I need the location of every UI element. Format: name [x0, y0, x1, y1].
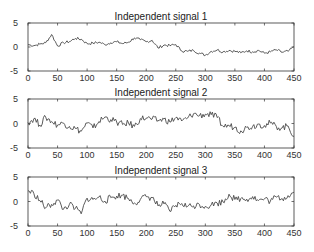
y-tick-label: -5 [10, 221, 18, 231]
x-tick-label: 400 [257, 73, 272, 83]
y-tick-label: 0 [13, 197, 18, 207]
x-tick-label: 250 [168, 228, 183, 238]
x-tick-label: 450 [286, 150, 301, 160]
y-tick-label: 0 [13, 119, 18, 129]
x-tick-label: 150 [109, 150, 124, 160]
axes-box [28, 99, 294, 148]
x-tick-label: 250 [168, 73, 183, 83]
x-tick-label: 300 [198, 150, 213, 160]
x-tick-label: 250 [168, 150, 183, 160]
y-tick-label: 5 [13, 18, 18, 28]
subplot-2: Independent signal 205010015020025030035… [10, 87, 302, 160]
x-tick-label: 400 [257, 150, 272, 160]
x-tick-label: 450 [286, 228, 301, 238]
y-tick-label: 0 [13, 42, 18, 52]
x-tick-label: 100 [80, 73, 95, 83]
x-tick-label: 400 [257, 228, 272, 238]
x-tick-label: 0 [25, 228, 30, 238]
x-tick-label: 0 [25, 150, 30, 160]
x-tick-label: 300 [198, 73, 213, 83]
x-tick-label: 200 [139, 228, 154, 238]
x-tick-label: 200 [139, 150, 154, 160]
x-tick-label: 200 [139, 73, 154, 83]
x-tick-label: 50 [53, 228, 63, 238]
subplot-title: Independent signal 3 [115, 165, 208, 176]
x-tick-label: 350 [227, 150, 242, 160]
x-tick-label: 0 [25, 73, 30, 83]
x-tick-label: 150 [109, 228, 124, 238]
x-tick-label: 150 [109, 73, 124, 83]
y-tick-label: -5 [10, 66, 18, 76]
x-tick-label: 50 [53, 150, 63, 160]
x-tick-label: 350 [227, 73, 242, 83]
subplot-title: Independent signal 1 [115, 11, 208, 22]
figure: Independent signal 105010015020025030035… [0, 0, 314, 252]
axes-box [28, 177, 294, 226]
x-tick-label: 300 [198, 228, 213, 238]
x-tick-label: 450 [286, 73, 301, 83]
x-tick-label: 100 [80, 150, 95, 160]
y-tick-label: 5 [13, 94, 18, 104]
subplot-3: Independent signal 305010015020025030035… [10, 165, 302, 238]
y-tick-label: 5 [13, 172, 18, 182]
subplot-title: Independent signal 2 [115, 87, 208, 98]
x-tick-label: 50 [53, 73, 63, 83]
x-tick-label: 350 [227, 228, 242, 238]
subplot-1: Independent signal 105010015020025030035… [10, 11, 302, 83]
x-tick-label: 100 [80, 228, 95, 238]
y-tick-label: -5 [10, 143, 18, 153]
